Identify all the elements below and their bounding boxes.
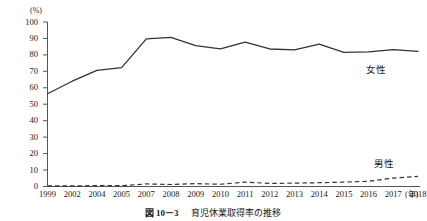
y-tick-label-20: 20	[14, 148, 38, 158]
y-tick-label-40: 40	[14, 115, 38, 125]
x-tick-label-2002: 2002	[64, 189, 81, 199]
x-tick-label-2015: 2015	[335, 189, 352, 199]
y-tick-label-70: 70	[14, 66, 38, 76]
x-tick-label-2010: 2010	[212, 189, 229, 199]
x-axis-unit-label: (年)	[405, 188, 418, 199]
series-line-male	[48, 176, 419, 186]
figure-caption-number: 図 10－3	[145, 208, 179, 218]
x-tick-label-2013: 2013	[286, 189, 303, 199]
x-tick-label-2005: 2005	[113, 189, 130, 199]
y-tick-label-10: 10	[14, 165, 38, 175]
axis-lines	[48, 22, 421, 187]
x-tick-label-1999: 1999	[39, 189, 56, 199]
x-tick-label-2011: 2011	[237, 189, 254, 199]
series-label-female: 女性	[366, 62, 386, 76]
y-tick-label-90: 90	[14, 33, 38, 43]
x-tick-label-2008: 2008	[163, 189, 180, 199]
figure-caption: 図 10－3 育児休業取得率の推移	[0, 206, 426, 219]
x-tick-label-2014: 2014	[311, 189, 328, 199]
y-tick-label-30: 30	[14, 132, 38, 142]
series-line-female	[48, 37, 419, 93]
x-tick-label-2007: 2007	[138, 189, 155, 199]
chart-plot-area: (%) 010203040506070809010	[0, 0, 426, 200]
line-chart-svg	[0, 0, 426, 200]
y-tick-label-60: 60	[14, 82, 38, 92]
x-tick-label-2004: 2004	[88, 189, 105, 199]
y-tick-label-50: 50	[14, 99, 38, 109]
y-tick-label-100: 100	[14, 17, 38, 27]
series-label-male: 男性	[374, 156, 394, 170]
y-tick-label-80: 80	[14, 49, 38, 59]
y-axis-ticks	[43, 22, 48, 187]
x-tick-label-2009: 2009	[187, 189, 204, 199]
figure-caption-title: 育児休業取得率の推移	[191, 208, 281, 218]
x-tick-label-2012: 2012	[261, 189, 278, 199]
x-tick-label-2016: 2016	[360, 189, 377, 199]
x-tick-label-2017: 2017	[385, 189, 402, 199]
y-tick-label-0: 0	[14, 181, 38, 191]
